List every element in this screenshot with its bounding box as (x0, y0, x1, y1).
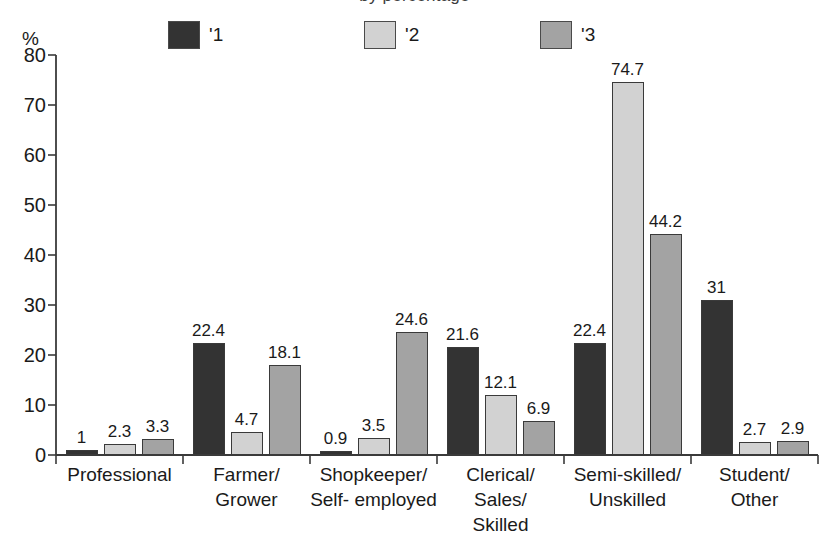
bar-value-label: 2.3 (108, 422, 132, 442)
x-axis-category-labels: ProfessionalFarmer/ GrowerShopkeeper/ Se… (56, 462, 818, 554)
bar-value-label: 3.5 (362, 416, 386, 436)
bar (320, 451, 352, 456)
bar-value-label: 3.3 (146, 417, 170, 437)
bar (231, 432, 263, 456)
y-tick-label: 20 (2, 344, 46, 367)
bar (777, 441, 809, 456)
bar (701, 300, 733, 455)
legend-label-2: '2 (405, 24, 419, 46)
bar-value-label: 2.9 (781, 419, 805, 439)
x-axis-category-label: Student/ Other (678, 462, 829, 512)
bar-value-label: 18.1 (268, 343, 301, 363)
bar (612, 82, 644, 456)
bar (447, 347, 479, 455)
bar (193, 343, 225, 455)
bar-value-label: 1 (77, 428, 86, 448)
y-tick-label: 40 (2, 244, 46, 267)
bar-value-label: 22.4 (573, 321, 606, 341)
legend-label-1: '1 (209, 24, 223, 46)
legend-swatch-icon-3 (540, 21, 572, 49)
bar (739, 442, 771, 456)
y-axis-tick-labels: 01020304050607080 (0, 0, 46, 554)
bar (396, 332, 428, 455)
legend-item-2: '2 (364, 18, 419, 52)
legend-item-3: '3 (540, 18, 595, 52)
bar (485, 395, 517, 456)
bar-value-label: 22.4 (192, 321, 225, 341)
y-tick-label: 10 (2, 394, 46, 417)
bar (66, 450, 98, 455)
legend-label-3: '3 (581, 24, 595, 46)
bar (574, 343, 606, 455)
bar (358, 438, 390, 456)
bar (523, 421, 555, 456)
bar (269, 365, 301, 456)
y-tick-label: 0 (2, 444, 46, 467)
bar-value-label: 21.6 (446, 325, 479, 345)
bar-value-label: 31 (707, 278, 726, 298)
bar (142, 439, 174, 456)
bar (104, 444, 136, 456)
bar-value-label: 24.6 (395, 310, 428, 330)
plot-area: 12.33.322.44.718.10.93.524.621.612.16.92… (56, 50, 818, 460)
bar-value-label: 74.7 (611, 60, 644, 80)
bar (650, 234, 682, 455)
y-tick-label: 80 (2, 44, 46, 67)
legend-swatch-icon-2 (364, 21, 396, 49)
legend-swatch-icon-1 (168, 21, 200, 49)
legend-item-1: '1 (168, 18, 223, 52)
bar-value-label: 4.7 (235, 410, 259, 430)
chart-legend: '1'2'3 (168, 18, 638, 52)
y-tick-label: 50 (2, 194, 46, 217)
bar-value-label: 44.2 (649, 212, 682, 232)
bar-value-label: 2.7 (743, 420, 767, 440)
bar-value-label: 12.1 (484, 373, 517, 393)
y-tick-label: 70 (2, 94, 46, 117)
bar-value-label: 6.9 (527, 399, 551, 419)
chart-title: by percentage (0, 0, 829, 6)
y-tick-label: 60 (2, 144, 46, 167)
bar-value-label: 0.9 (324, 429, 348, 449)
bar-chart: by percentage % '1'2'3 01020304050607080… (0, 0, 829, 554)
y-tick-label: 30 (2, 294, 46, 317)
